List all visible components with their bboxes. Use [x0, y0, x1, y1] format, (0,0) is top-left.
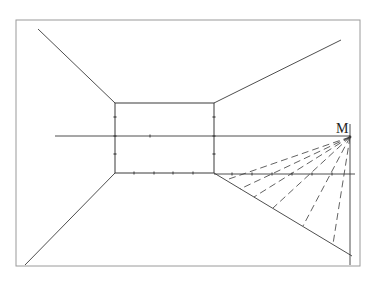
floor-lines: [25, 173, 352, 265]
diagram-canvas: M: [0, 0, 375, 291]
dashed-ray: [333, 137, 350, 244]
ceiling-edge-line: [214, 40, 341, 103]
floor-edge-line: [214, 173, 352, 256]
dashed-ray: [240, 137, 350, 189]
tick-marks: [114, 117, 333, 176]
ceiling-edge-line: [38, 29, 115, 103]
dashed-ray: [254, 137, 350, 197]
floor-edge-line: [25, 173, 115, 265]
dashed-measuring-rays: [226, 137, 350, 244]
point-m-label: M: [336, 121, 349, 136]
ceiling-lines: [38, 29, 341, 103]
back-wall-rectangle: [115, 103, 214, 173]
perspective-diagram: M: [0, 0, 375, 291]
point-m-marker: [349, 136, 352, 139]
